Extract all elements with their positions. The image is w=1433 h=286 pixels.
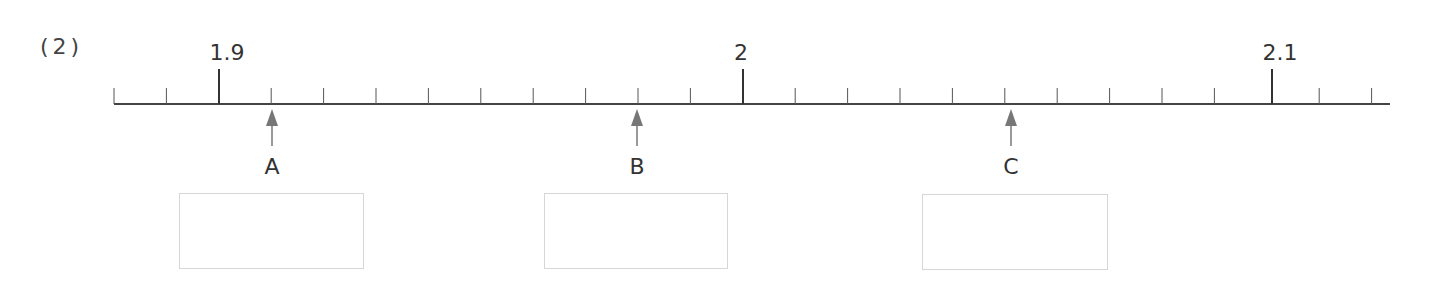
- arrow-up-icon: [1005, 109, 1017, 126]
- answer-box-b[interactable]: [544, 193, 728, 269]
- answer-box-a[interactable]: [179, 193, 364, 269]
- point-label-a: A: [264, 154, 279, 179]
- major-tick-label: 2.1: [1263, 40, 1298, 65]
- major-tick-label: 2: [734, 40, 748, 65]
- answer-box-c[interactable]: [922, 194, 1108, 270]
- arrow-up-icon: [631, 109, 643, 126]
- arrow-up-icon: [266, 109, 278, 126]
- point-label-b: B: [629, 154, 644, 179]
- major-tick-label: 1.9: [210, 40, 245, 65]
- point-label-c: C: [1003, 154, 1018, 179]
